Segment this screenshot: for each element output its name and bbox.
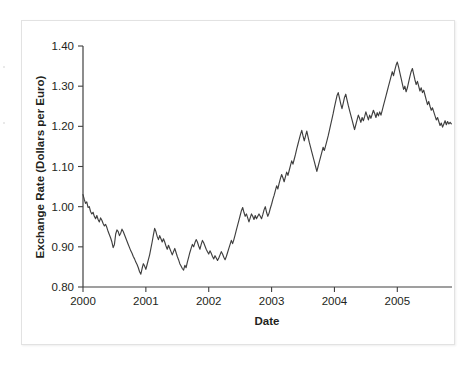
y-axis-ticks: 0.800.901.001.101.201.301.40 — [52, 40, 83, 293]
scan-artifact — [3, 122, 5, 124]
y-tick-label: 0.80 — [52, 281, 74, 293]
exchange-rate-line-chart: 0.800.901.001.101.201.301.40 20002001200… — [0, 0, 471, 366]
y-tick-label: 0.90 — [52, 241, 74, 253]
data-series-line — [83, 62, 451, 274]
y-axis-title: Exchange Rate (Dollars per Euro) — [34, 75, 46, 258]
x-tick-label: 2005 — [385, 295, 411, 307]
y-tick-label: 1.20 — [52, 120, 74, 132]
y-tick-label: 1.00 — [52, 201, 74, 213]
y-tick-label: 1.10 — [52, 161, 74, 173]
x-tick-label: 2001 — [133, 295, 159, 307]
x-axis-title: Date — [255, 315, 280, 327]
x-axis-ticks: 200020012002200320042005 — [70, 287, 410, 307]
y-tick-label: 1.30 — [52, 80, 74, 92]
x-tick-label: 2002 — [196, 295, 222, 307]
x-tick-label: 2004 — [322, 295, 348, 307]
x-tick-label: 2000 — [70, 295, 96, 307]
x-tick-label: 2003 — [259, 295, 285, 307]
y-tick-label: 1.40 — [52, 40, 74, 52]
scan-artifact — [3, 66, 5, 68]
